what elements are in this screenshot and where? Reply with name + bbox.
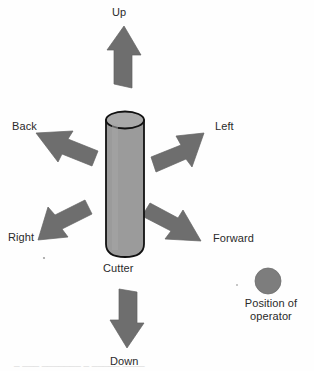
arrow-right xyxy=(38,200,92,240)
arrow-back xyxy=(36,131,98,166)
operator-label-line-2: operator xyxy=(250,310,292,322)
label-up: Up xyxy=(112,6,126,18)
arrow-back-shape xyxy=(36,131,98,166)
label-right: Right xyxy=(8,231,34,243)
operator-label-line-1: Position of xyxy=(245,297,297,309)
cutter-cylinder xyxy=(106,112,144,258)
arrow-forward-shape xyxy=(142,203,201,241)
arrow-down-shape xyxy=(110,289,144,348)
label-cutter: Cutter xyxy=(103,262,134,274)
label-left: Left xyxy=(215,120,234,132)
arrow-left xyxy=(151,133,204,172)
label-operator-position: Position of operator xyxy=(228,297,314,323)
scan-speck-left xyxy=(43,257,45,259)
clipped-caption-text: _ ___ _______ _ _____ ____ xyxy=(14,360,145,367)
figure-canvas: Up Down Back Left Right Forward Cutter P… xyxy=(0,0,314,371)
scan-speck-right xyxy=(236,284,238,286)
arrow-up xyxy=(107,26,141,88)
arrow-right-shape xyxy=(38,200,92,240)
cutter-body xyxy=(106,120,144,257)
operator-dot-icon xyxy=(255,268,281,294)
clipped-caption: _ ___ _______ _ _____ ____ xyxy=(0,360,314,371)
cutter-top-face xyxy=(106,112,144,129)
arrow-up-shape xyxy=(107,26,141,88)
label-back: Back xyxy=(12,120,37,132)
cutter-highlight xyxy=(112,124,118,250)
arrow-left-shape xyxy=(151,133,204,172)
label-forward: Forward xyxy=(213,232,254,244)
arrow-forward xyxy=(142,203,201,241)
arrow-down xyxy=(110,289,144,348)
